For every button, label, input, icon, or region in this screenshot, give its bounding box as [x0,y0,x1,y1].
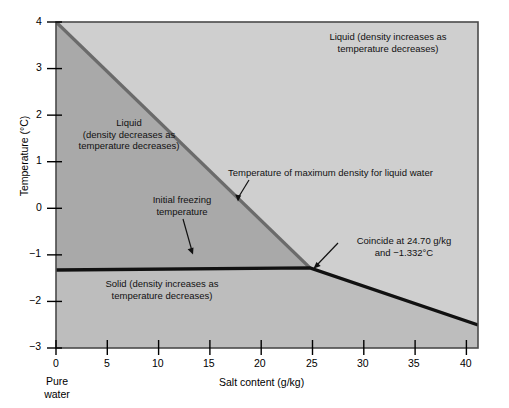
region-label-liquid-decreases-line1: Liquid [116,117,141,128]
y-tick-label-neg2: −2 [29,294,41,306]
x-tick-label-10: 10 [152,357,164,369]
annotation-coincide: Coincide at 24.70 g/kg and −1.332°C [340,235,468,258]
y-tick-label-4: 4 [36,15,42,27]
region-label-liquid-increases-line2: temperature decreases) [338,43,439,54]
y-tick-label-2: 2 [36,108,42,120]
annotation-initial-freezing: Initial freezing temperature [131,194,233,217]
annotation-initial-freezing-line2: temperature [156,206,207,217]
region-label-solid-line1: Solid (density increases as [106,278,219,289]
x-tick-label-25: 25 [306,357,318,369]
annotation-initial-freezing-line1: Initial freezing [153,194,212,205]
region-label-solid-line2: temperature decreases) [112,290,213,301]
annotation-coincide-line2: and −1.332°C [375,247,433,258]
x-tick-label-0: 0 [53,357,59,369]
x-tick-label-35: 35 [408,357,420,369]
y-axis-title: Temperature (°C) [18,96,30,216]
pure-water-line2: water [44,388,70,400]
region-label-liquid-decreases-line2: (density decreases as [83,129,175,140]
x-tick-label-30: 30 [357,357,369,369]
pure-water-note: Pure water [34,375,80,401]
x-tick-label-40: 40 [460,357,472,369]
annotation-coincide-line1: Coincide at 24.70 g/kg [357,235,452,246]
region-label-solid: Solid (density increases as temperature … [72,278,252,301]
y-tick-label-1: 1 [36,154,42,166]
plot-canvas [0,0,509,408]
region-label-liquid-density-decreases: Liquid (density decreases as temperature… [54,117,204,152]
y-tick-label-3: 3 [36,61,42,73]
phase-diagram-figure: 4 3 2 1 0 −1 −2 −3 Temperature (°C) 0 5 … [0,0,509,408]
x-axis-title: Salt content (g/kg) [219,376,304,388]
x-tick-label-5: 5 [104,357,110,369]
region-label-liquid-density-increases: Liquid (density increases as temperature… [298,31,478,54]
y-tick-label-0: 0 [36,201,42,213]
x-tick-label-20: 20 [254,357,266,369]
x-tick-label-15: 15 [203,357,215,369]
region-label-liquid-increases-line1: Liquid (density increases as [329,31,446,42]
y-tick-label-neg3: −3 [29,340,41,352]
y-tick-label-neg1: −1 [29,247,41,259]
region-label-liquid-decreases-line3: temperature decreases) [79,140,180,151]
pure-water-line1: Pure [46,375,68,387]
annotation-max-density: Temperature of maximum density for liqui… [228,167,442,179]
